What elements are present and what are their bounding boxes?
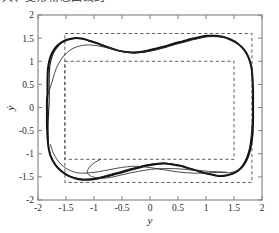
x-tick-label: -0.5 (114, 203, 129, 213)
x-axis-tick-labels: -2-1.5-1-0.500.511.52 (34, 203, 265, 213)
x-tick-label: 0.5 (172, 203, 184, 213)
x-tick-label: 0 (148, 203, 153, 213)
y-tick-label: 0.5 (22, 80, 34, 90)
chart-canvas: -2-1.5-1-0.500.511.52 -2-1.5-1-0.500.511… (0, 0, 279, 233)
y-tick-label: 1 (29, 57, 34, 67)
y-tick-label: 2 (29, 10, 34, 20)
x-tick-label: -1.5 (58, 203, 73, 213)
x-tick-label: 1 (204, 203, 209, 213)
x-tick-label: -2 (34, 203, 42, 213)
y-tick-label: -1.5 (19, 172, 34, 182)
phase-portrait-figure: 大、变形物态曲线的 -2-1.5-1-0.500.511.52 -2-1.5-1… (0, 0, 279, 233)
x-axis-label: y (147, 214, 153, 226)
plot-background (38, 15, 262, 200)
y-tick-label: -0.5 (19, 126, 34, 136)
y-tick-label: 1.5 (22, 34, 34, 44)
y-tick-label: -1 (26, 149, 34, 159)
y-axis-tick-labels: -2-1.5-1-0.500.511.52 (19, 10, 34, 205)
y-axis-label: ẏ (4, 105, 16, 111)
x-tick-label: -1 (90, 203, 98, 213)
x-tick-label: 2 (260, 203, 265, 213)
y-tick-label: -2 (26, 195, 34, 205)
x-tick-label: 1.5 (228, 203, 240, 213)
clipped-caption-text: 大、变形物态曲线的 (2, 0, 182, 4)
y-tick-label: 0 (29, 103, 34, 113)
